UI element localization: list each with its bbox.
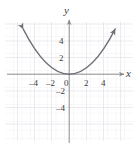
graph-figure: y x –4 –2 0 2 4 4 2 –2 –4 (0, 0, 139, 147)
coordinate-plane (0, 0, 139, 147)
x-tick-label--4: –4 (29, 79, 38, 88)
y-tick-label-4: 4 (59, 37, 64, 46)
x-tick-label-4: 4 (101, 79, 106, 88)
y-tick-label--2: –2 (56, 87, 65, 96)
y-tick-label-2: 2 (59, 54, 64, 63)
y-axis-label: y (64, 5, 69, 16)
x-axis-label: x (126, 68, 131, 79)
y-tick-label--4: –4 (56, 104, 65, 113)
x-tick-label--2: –2 (46, 79, 55, 88)
x-tick-label-2: 2 (84, 79, 89, 88)
